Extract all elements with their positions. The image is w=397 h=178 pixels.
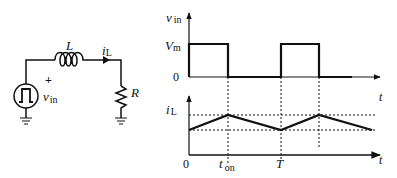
source-label: vin [43,89,58,105]
top-y-label: vin [166,10,182,25]
inductor-label: L [65,38,73,53]
bottom-plot [189,96,380,155]
resistor-label: R [130,85,139,100]
vin-waveform [189,44,352,77]
origin-label: 0 [183,157,189,171]
vm-label: Vm [165,38,181,53]
t-on-label: ton [219,156,235,173]
pulse-glyph-icon [19,89,33,102]
pulse-source-icon [14,84,38,108]
circuit [14,53,127,125]
polarity-plus: + [45,73,52,87]
buck-diagram: L iL R + vin vin Vm 0 t iL 0 ton T t [0,0,397,178]
wire-top-right [88,60,121,86]
resistor-icon [116,86,126,118]
period-label: T [276,156,284,171]
zero-level-label: 0 [173,70,179,84]
ground-icon [20,118,32,124]
top-x-label: t [379,90,383,104]
top-plot [189,13,380,165]
current-label: iL [102,43,112,58]
bottom-y-label: iL [166,102,177,117]
bottom-x-label: t [379,153,383,167]
inductor-icon [55,53,88,67]
ground-icon [115,118,127,124]
